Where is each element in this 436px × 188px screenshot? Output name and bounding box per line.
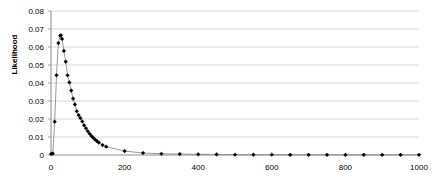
- svg-text:1000: 1000: [410, 163, 428, 172]
- svg-text:0: 0: [49, 163, 54, 172]
- svg-text:0.01: 0.01: [28, 133, 44, 142]
- y-axis-tick-labels: 00.010.020.030.040.050.060.070.08: [28, 7, 44, 160]
- svg-text:0.07: 0.07: [28, 25, 44, 34]
- svg-text:800: 800: [339, 163, 353, 172]
- x-axis-tick-labels: 02004006008001000: [49, 163, 429, 172]
- series-markers-likelihood: [49, 33, 421, 157]
- svg-text:0.05: 0.05: [28, 61, 44, 70]
- svg-text:0.06: 0.06: [28, 43, 44, 52]
- svg-text:0.03: 0.03: [28, 97, 44, 106]
- svg-text:0: 0: [40, 151, 45, 160]
- likelihood-line-chart: 00.010.020.030.040.050.060.070.08 020040…: [0, 0, 436, 188]
- gridlines: [51, 11, 419, 137]
- svg-text:0.04: 0.04: [28, 79, 44, 88]
- svg-text:0.08: 0.08: [28, 7, 44, 16]
- svg-text:400: 400: [192, 163, 206, 172]
- svg-text:200: 200: [118, 163, 132, 172]
- chart-container: Likelihood 00.010.020.030.040.050.060.07…: [0, 0, 436, 188]
- svg-text:600: 600: [265, 163, 279, 172]
- svg-text:0.02: 0.02: [28, 115, 44, 124]
